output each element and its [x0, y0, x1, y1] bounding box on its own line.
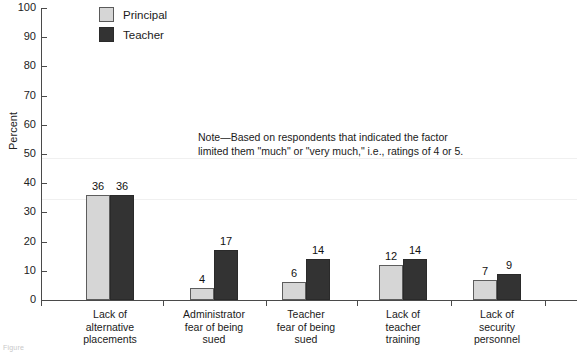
category-label-line: personnel [445, 333, 549, 346]
bar-principal [379, 265, 403, 300]
y-axis-tick-label: 80 [2, 60, 36, 71]
legend-swatch-teacher [99, 27, 114, 42]
y-axis-tick [42, 300, 47, 301]
category-label-line: sued [162, 333, 266, 346]
y-axis-tick [42, 154, 47, 155]
bar-teacher [403, 259, 427, 300]
bar-value-label: 36 [108, 180, 136, 192]
bar-teacher [214, 250, 238, 300]
y-axis-tick [42, 37, 47, 38]
bar-principal [473, 280, 497, 300]
bar-principal [282, 282, 306, 300]
x-axis-tick [163, 301, 164, 306]
x-axis-tick [545, 301, 546, 306]
y-axis-tick [42, 96, 47, 97]
y-axis-tick-label: 50 [2, 148, 36, 159]
y-axis-tick [42, 66, 47, 67]
category-label-line: training [351, 333, 455, 346]
bar-teacher [497, 274, 521, 300]
y-axis-tick [42, 271, 47, 272]
bar-teacher [110, 195, 134, 300]
category-label-line: Administrator [162, 308, 266, 321]
category-label-line: placements [58, 333, 162, 346]
category-label-line: security [445, 321, 549, 334]
y-axis-tick [42, 183, 47, 184]
x-axis-category-label: Lack ofalternativeplacements [58, 308, 162, 346]
legend: Principal Teacher [99, 6, 167, 46]
y-axis-tick-label: 0 [2, 294, 36, 305]
category-label-line: sued [254, 333, 358, 346]
x-axis-category-label: Administratorfear of beingsued [162, 308, 266, 346]
category-label-line: fear of being [254, 321, 358, 334]
y-axis-tick-label: 100 [2, 2, 36, 13]
figure-caption: Figure [3, 344, 24, 351]
legend-item-teacher: Teacher [99, 26, 167, 43]
y-axis-tick-label: 20 [2, 236, 36, 247]
y-axis-tick-label: 70 [2, 90, 36, 101]
y-axis-tick-label: 90 [2, 31, 36, 42]
y-axis-tick-label: 40 [2, 177, 36, 188]
chart-note-line-1: Note—Based on respondents that indicated… [198, 131, 528, 145]
x-axis-category-label: Teacherfear of beingsued [254, 308, 358, 346]
y-axis-tick [42, 8, 47, 9]
x-axis-category-label: Lack ofsecuritypersonnel [445, 308, 549, 346]
x-axis-tick [451, 301, 452, 306]
category-label-line: teacher [351, 321, 455, 334]
x-axis-tick [41, 301, 42, 306]
bar-value-label: 4 [188, 273, 216, 285]
y-axis-tick-label: 60 [2, 119, 36, 130]
bar-value-label: 14 [401, 244, 429, 256]
category-label-line: Lack of [58, 308, 162, 321]
bar-principal [86, 195, 110, 300]
x-axis-tick [357, 301, 358, 306]
legend-swatch-principal [99, 7, 114, 22]
x-axis-category-label: Lack ofteachertraining [351, 308, 455, 346]
x-axis-line [41, 300, 577, 301]
legend-label-principal: Principal [123, 9, 167, 21]
legend-label-teacher: Teacher [123, 29, 164, 41]
chart-note-line-2: limited them "much" or "very much," i.e.… [198, 145, 528, 159]
y-axis-tick-label: 10 [2, 265, 36, 276]
category-label-line: fear of being [162, 321, 266, 334]
y-axis-tick [42, 242, 47, 243]
y-axis-tick [42, 125, 47, 126]
category-label-line: Lack of [445, 308, 549, 321]
chart-note: Note—Based on respondents that indicated… [198, 131, 528, 158]
y-axis-tick [42, 212, 47, 213]
category-label-line: alternative [58, 321, 162, 334]
bar-value-label: 14 [304, 244, 332, 256]
bar-teacher [306, 259, 330, 300]
category-label-line: Teacher [254, 308, 358, 321]
bar-value-label: 9 [495, 259, 523, 271]
bar-chart: Percent 0102030405060708090100 Principal… [0, 0, 577, 353]
scan-artifact-line [42, 158, 577, 159]
legend-item-principal: Principal [99, 6, 167, 23]
bar-principal [190, 288, 214, 300]
category-label-line: Lack of [351, 308, 455, 321]
bar-value-label: 6 [280, 267, 308, 279]
bar-value-label: 17 [212, 235, 240, 247]
y-axis-tick-label: 30 [2, 206, 36, 217]
x-axis-tick [266, 301, 267, 306]
